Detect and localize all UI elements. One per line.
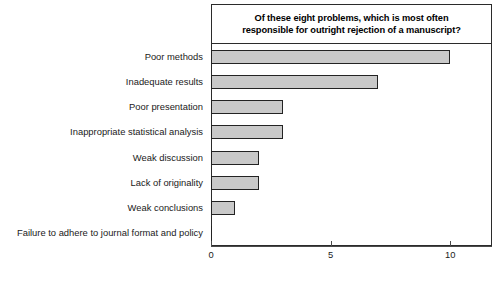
chart-title-line-1: Of these eight problems, which is most o… [255, 13, 449, 23]
chart-title: Of these eight problems, which is most o… [236, 12, 467, 37]
x-axis-tick [450, 241, 451, 247]
x-axis-tick-label: 5 [328, 249, 333, 260]
category-label: Poor methods [145, 51, 203, 62]
x-axis-tick [211, 241, 212, 247]
bar [211, 100, 283, 114]
category-label: Lack of originality [131, 177, 203, 188]
bar [211, 75, 378, 89]
category-axis-labels: Poor methodsInadequate resultsPoor prese… [0, 44, 207, 246]
category-label: Weak discussion [133, 152, 203, 163]
x-axis-tick-label: 10 [445, 249, 455, 260]
bar [211, 176, 259, 190]
category-label: Inadequate results [126, 76, 203, 87]
bars-layer [211, 44, 492, 246]
category-label: Weak conclusions [128, 202, 203, 213]
bar [211, 226, 212, 240]
x-axis-tick [331, 241, 332, 247]
bar [211, 125, 283, 139]
category-label: Failure to adhere to journal format and … [17, 227, 203, 238]
bar [211, 50, 450, 64]
bar [211, 151, 259, 165]
chart-title-line-2: responsible for outright rejection of a … [242, 25, 461, 35]
chart-title-box: Of these eight problems, which is most o… [211, 4, 492, 44]
x-axis-tick-label: 0 [208, 249, 213, 260]
bar [211, 201, 235, 215]
category-label: Poor presentation [129, 101, 203, 112]
category-label: Inappropriate statistical analysis [70, 126, 203, 137]
bar-chart-figure: Of these eight problems, which is most o… [0, 0, 499, 281]
